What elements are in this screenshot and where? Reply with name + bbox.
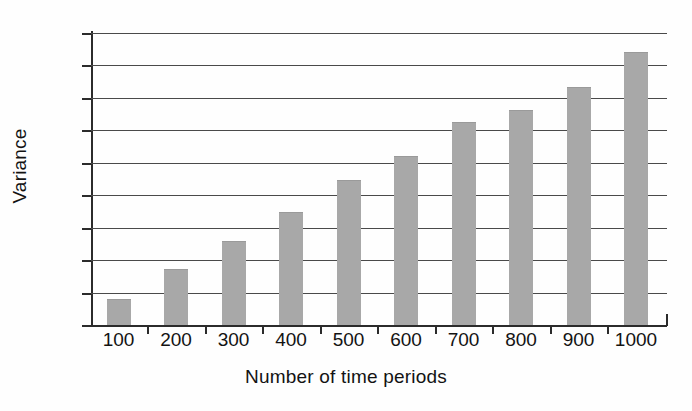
y-axis-tick: [82, 130, 91, 132]
x-axis-title: Number of time periods: [0, 366, 692, 388]
y-axis-tick: [82, 293, 91, 295]
bar: [222, 241, 246, 325]
gridline: [91, 33, 667, 34]
gridline: [91, 65, 667, 66]
y-axis-tick: [82, 228, 91, 230]
y-axis-tick: [82, 98, 91, 100]
y-axis-tick: [82, 65, 91, 67]
y-axis-tick: [82, 325, 91, 327]
bar: [337, 180, 361, 325]
y-axis-tick: [82, 195, 91, 197]
plot-area: [91, 33, 667, 325]
y-axis-tick: [82, 33, 91, 35]
y-axis-tick: [82, 260, 91, 262]
y-axis-tick: [82, 163, 91, 165]
bar: [279, 212, 303, 325]
bar: [567, 87, 591, 325]
y-axis-title: Variance: [9, 86, 31, 246]
bar: [394, 156, 418, 325]
bar: [509, 110, 533, 325]
bar: [624, 52, 648, 325]
bar: [107, 299, 131, 325]
bar-chart-figure: Variance 0102030405060708090 10020030040…: [0, 0, 692, 411]
bar: [452, 122, 476, 325]
bar: [164, 269, 188, 325]
x-tick-label: 1000: [601, 330, 671, 349]
